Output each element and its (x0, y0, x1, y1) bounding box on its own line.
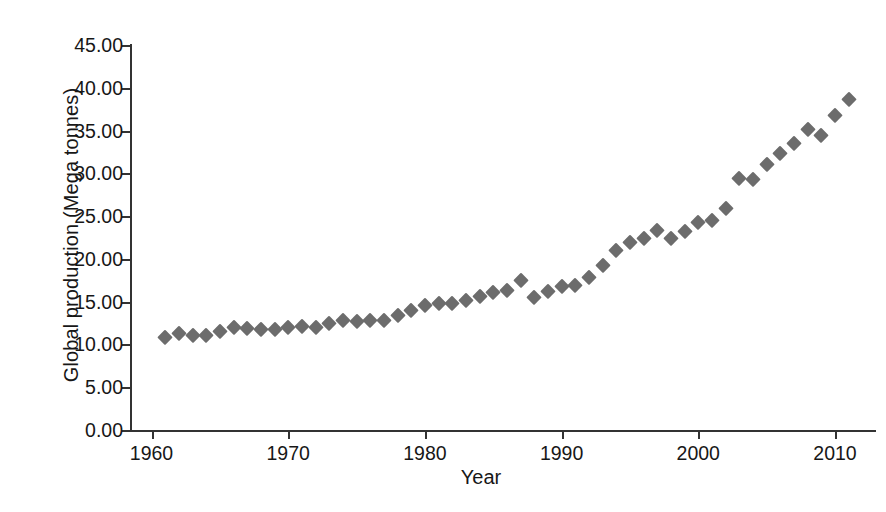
data-point (281, 320, 296, 335)
data-point (705, 212, 720, 227)
data-point (841, 91, 856, 106)
y-tick-label: 30.00 (74, 162, 123, 185)
scatter-chart: Global production (Mega tonnes) 0.005.00… (0, 0, 886, 512)
y-tick-mark (122, 302, 131, 304)
data-point (677, 223, 692, 238)
data-point (773, 145, 788, 160)
x-tick-mark (698, 430, 700, 439)
y-tick-label: 15.00 (74, 291, 123, 314)
y-tick-label: 0.00 (85, 419, 123, 442)
y-tick-label: 5.00 (85, 376, 123, 399)
x-tick-label: 2010 (813, 442, 856, 465)
y-tick-mark (122, 131, 131, 133)
data-point (664, 231, 679, 246)
data-point (554, 279, 569, 294)
data-point (718, 201, 733, 216)
data-point (349, 314, 364, 329)
data-point (376, 313, 391, 328)
data-point (540, 284, 555, 299)
y-tick-mark (122, 344, 131, 346)
x-axis-line (130, 430, 876, 432)
y-axis-title: Global production (Mega tonnes) (60, 50, 83, 420)
x-tick-mark (835, 430, 837, 439)
data-point (568, 277, 583, 292)
data-point (513, 273, 528, 288)
data-point (267, 322, 282, 337)
x-tick-label: 1980 (403, 442, 446, 465)
y-tick-mark (122, 45, 131, 47)
y-tick-mark (122, 387, 131, 389)
data-point (746, 172, 761, 187)
data-point (417, 298, 432, 313)
data-point (691, 215, 706, 230)
x-axis-title: Year (131, 466, 831, 489)
data-point (294, 319, 309, 334)
x-tick-label: 1990 (540, 442, 583, 465)
plot-area: 0.005.0010.0015.0020.0025.0030.0035.0040… (131, 45, 876, 430)
y-tick-label: 40.00 (74, 77, 123, 100)
data-point (458, 293, 473, 308)
y-tick-label: 25.00 (74, 205, 123, 228)
data-point (335, 313, 350, 328)
data-point (650, 222, 665, 237)
data-point (828, 108, 843, 123)
data-point (472, 288, 487, 303)
data-point (158, 329, 173, 344)
data-point (171, 326, 186, 341)
y-tick-mark (122, 259, 131, 261)
y-tick-mark (122, 216, 131, 218)
data-point (212, 323, 227, 338)
x-tick-label: 2000 (677, 442, 720, 465)
x-tick-mark (425, 430, 427, 439)
y-tick-label: 45.00 (74, 34, 123, 57)
data-point (499, 282, 514, 297)
data-point (623, 234, 638, 249)
y-tick-label: 10.00 (74, 333, 123, 356)
y-tick-mark (122, 430, 131, 432)
data-point (199, 328, 214, 343)
data-point (404, 303, 419, 318)
y-tick-label: 20.00 (74, 248, 123, 271)
data-point (445, 295, 460, 310)
x-tick-mark (562, 430, 564, 439)
data-point (595, 257, 610, 272)
y-tick-label: 35.00 (74, 120, 123, 143)
data-point (322, 316, 337, 331)
x-tick-label: 1960 (130, 442, 173, 465)
data-point (581, 269, 596, 284)
x-tick-mark (288, 430, 290, 439)
data-point (814, 127, 829, 142)
data-point (363, 313, 378, 328)
data-point (759, 156, 774, 171)
data-point (609, 243, 624, 258)
data-point (787, 136, 802, 151)
data-point (240, 321, 255, 336)
y-tick-mark (122, 173, 131, 175)
data-point (486, 285, 501, 300)
data-point (527, 290, 542, 305)
data-point (636, 230, 651, 245)
x-tick-mark (152, 430, 154, 439)
y-tick-mark (122, 88, 131, 90)
y-axis-title-container: Global production (Mega tonnes) (26, 0, 66, 470)
x-tick-label: 1970 (266, 442, 309, 465)
data-point (253, 322, 268, 337)
